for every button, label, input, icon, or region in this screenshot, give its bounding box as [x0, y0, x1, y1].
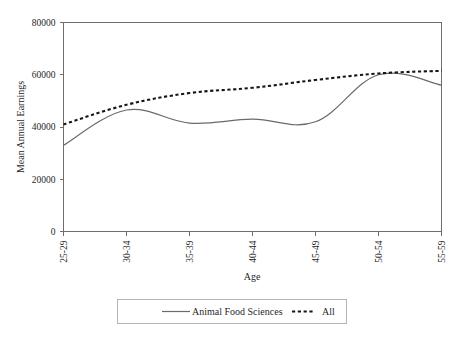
- x-tick-label: 25-29: [59, 240, 69, 262]
- y-axis-title: Mean Annual Earnings: [15, 81, 26, 173]
- x-tick-label: 55-59: [437, 240, 447, 262]
- chart-legend: Animal Food Sciences All: [118, 300, 347, 324]
- x-tick-label: 45-49: [311, 240, 321, 262]
- x-tick-label: 50-54: [374, 240, 384, 262]
- plot-frame: [64, 23, 442, 232]
- legend-label-all: All: [322, 306, 335, 317]
- series-line-all: [64, 71, 442, 125]
- y-tick-label: 20000: [32, 175, 56, 185]
- x-tick-label: 40-44: [248, 240, 258, 262]
- x-tick-label: 30-34: [122, 240, 132, 262]
- legend-label-animal-food-sciences: Animal Food Sciences: [192, 306, 283, 317]
- y-tick-label: 80000: [32, 18, 56, 28]
- series-line-animal-food-sciences: [64, 73, 442, 145]
- y-tick-label: 0: [51, 227, 56, 237]
- y-tick-label: 60000: [32, 70, 56, 80]
- x-axis-ticks: 25-2930-3435-3940-4445-4950-5455-59: [59, 232, 447, 263]
- y-tick-label: 40000: [32, 122, 56, 132]
- earnings-by-age-line-chart: 020000400006000080000 25-2930-3435-3940-…: [0, 0, 464, 339]
- x-axis-title: Age: [244, 271, 261, 282]
- chart-container: 020000400006000080000 25-2930-3435-3940-…: [0, 0, 464, 339]
- y-axis-ticks: 020000400006000080000: [32, 18, 64, 237]
- x-tick-label: 35-39: [185, 240, 195, 262]
- series-layer: [64, 71, 442, 145]
